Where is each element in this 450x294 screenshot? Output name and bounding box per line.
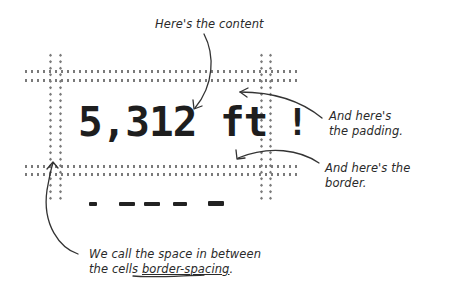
annotation-spacing-prefix: the cells	[89, 262, 142, 276]
annotation-padding: And here's the padding.	[329, 109, 403, 139]
annotation-border: And here's the border.	[325, 161, 450, 191]
annotation-content-text: Here's the content	[155, 17, 264, 31]
annotation-spacing-line2: the cells border-spacing.	[89, 262, 261, 277]
content-arrow-icon	[195, 34, 211, 108]
annotation-content: Here's the content	[155, 17, 264, 32]
border-spacing-arrow-icon	[46, 163, 78, 254]
table-anatomy-diagram: 5,312 ft ! Here's the content	[0, 0, 450, 294]
annotation-padding-line2: the padding.	[329, 124, 403, 139]
annotation-border-text: And here's the border.	[325, 161, 410, 190]
annotation-spacing-term: border-spacing	[142, 262, 230, 276]
annotation-border-spacing: We call the space in between the cells b…	[89, 247, 261, 277]
padding-arrow-icon	[240, 92, 322, 118]
annotation-spacing-suffix: .	[230, 262, 234, 276]
border-arrow-icon	[238, 150, 319, 163]
annotation-padding-line1: And here's	[329, 109, 403, 124]
annotation-spacing-line1: We call the space in between	[89, 247, 261, 262]
